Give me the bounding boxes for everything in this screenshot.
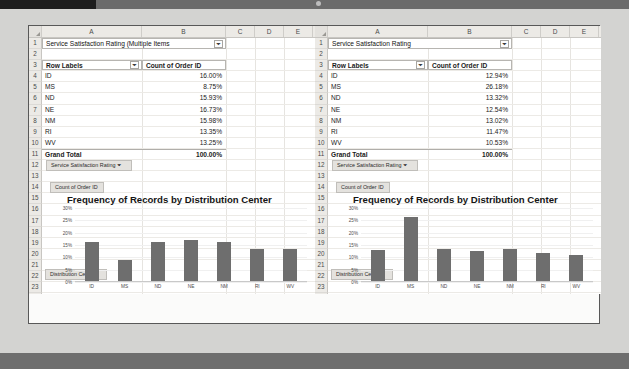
column-header-b[interactable]: B (142, 26, 226, 37)
row-number-21[interactable]: 21 (29, 260, 42, 271)
row-number-20[interactable]: 20 (29, 249, 42, 260)
select-all-corner[interactable] (315, 26, 328, 37)
row-number-2[interactable]: 2 (315, 49, 328, 60)
row-number-15[interactable]: 15 (29, 193, 42, 204)
row-number-8[interactable]: 8 (29, 116, 42, 127)
row-number-5[interactable]: 5 (315, 82, 328, 93)
chart-bar (569, 255, 583, 281)
row-number-13[interactable]: 13 (29, 171, 42, 182)
table-row: 10WV13.25% (29, 138, 315, 149)
row-number-12[interactable]: 12 (315, 160, 328, 171)
pivot-chart-panel-b[interactable]: Frequency of Records by Distribution Cen… (329, 194, 598, 290)
row-number-6[interactable]: 6 (315, 93, 328, 104)
row-number-14[interactable]: 14 (29, 182, 42, 193)
sheet-row: 11Grand Total100.00% (315, 149, 601, 160)
column-header-e[interactable]: E (570, 26, 599, 37)
row-number-19[interactable]: 19 (315, 238, 328, 249)
row-number-2[interactable]: 2 (29, 49, 42, 60)
cell-gridline (226, 149, 227, 159)
cell-count-value: 13.32% (428, 93, 512, 103)
row-number-3[interactable]: 3 (315, 60, 328, 71)
column-header-c[interactable]: C (226, 26, 255, 37)
row-number-22[interactable]: 22 (315, 271, 328, 282)
row-number-9[interactable]: 9 (29, 127, 42, 138)
column-header-c[interactable]: C (512, 26, 541, 37)
row-labels-filter-icon[interactable]: ⏷ (416, 61, 425, 69)
row-number-7[interactable]: 7 (29, 105, 42, 116)
row-number-12[interactable]: 12 (29, 160, 42, 171)
cell-gridline (570, 116, 571, 126)
row-number-20[interactable]: 20 (315, 249, 328, 260)
row-number-8[interactable]: 8 (315, 116, 328, 127)
row-number-24[interactable]: 24 (315, 293, 328, 294)
y-axis-tick: 30% (349, 206, 358, 211)
chart-bar (283, 249, 297, 281)
row-labels-filter-icon[interactable]: ⏷ (130, 61, 139, 69)
row-number-9[interactable]: 9 (315, 127, 328, 138)
row-number-13[interactable]: 13 (315, 171, 328, 182)
row-number-10[interactable]: 10 (315, 138, 328, 149)
row-number-7[interactable]: 7 (315, 105, 328, 116)
row-cells (328, 293, 601, 294)
row-cells: NE12.54% (328, 105, 601, 116)
row-number-18[interactable]: 18 (29, 227, 42, 238)
report-filter-label: Service Satisfaction Rating (Multiple It… (43, 39, 225, 49)
sheet-row: 13 (315, 171, 601, 182)
row-number-16[interactable]: 16 (315, 204, 328, 215)
pivot-field-button-filter[interactable]: Service Satisfaction Rating ⏷ (332, 160, 418, 171)
row-number-4[interactable]: 4 (29, 71, 42, 82)
row-number-11[interactable]: 11 (315, 149, 328, 160)
row-number-17[interactable]: 17 (29, 216, 42, 227)
y-axis-tick: 20% (349, 230, 358, 235)
sheet-row: 13 (29, 171, 315, 182)
row-number-10[interactable]: 10 (29, 138, 42, 149)
column-header-d[interactable]: D (541, 26, 570, 37)
pivot-field-button-filter[interactable]: Service Satisfaction Rating ⏷ (46, 160, 132, 171)
report-filter-cell[interactable]: Service Satisfaction Rating⏷ (328, 38, 512, 49)
cell-count-value: 16.73% (142, 105, 226, 115)
row-number-4[interactable]: 4 (315, 71, 328, 82)
row-number-1[interactable]: 1 (315, 38, 328, 49)
column-header-e[interactable]: E (284, 26, 313, 37)
row-number-21[interactable]: 21 (315, 260, 328, 271)
cell-gridline (142, 171, 143, 181)
row-number-15[interactable]: 15 (315, 193, 328, 204)
row-number-16[interactable]: 16 (29, 204, 42, 215)
report-filter-icon[interactable]: ⏷ (214, 40, 223, 48)
row-cells (42, 293, 315, 294)
row-number-24[interactable]: 24 (29, 293, 42, 294)
cell-gridline (541, 71, 542, 81)
select-all-corner[interactable] (29, 26, 42, 37)
field-filter-icon: ⏷ (401, 162, 407, 168)
row-number-19[interactable]: 19 (29, 238, 42, 249)
pivot-field-button-values[interactable]: Count of Order ID (50, 182, 104, 193)
row-number-22[interactable]: 22 (29, 271, 42, 282)
row-number-14[interactable]: 14 (315, 182, 328, 193)
report-filter-icon[interactable]: ⏷ (500, 40, 509, 48)
row-number-6[interactable]: 6 (29, 93, 42, 104)
table-row: 5MS8.75% (29, 82, 315, 93)
row-cells: WV13.25% (42, 138, 315, 149)
row-number-1[interactable]: 1 (29, 38, 42, 49)
chart-bar (371, 250, 385, 281)
column-header-a[interactable]: A (328, 26, 428, 37)
column-header-b[interactable]: B (428, 26, 512, 37)
pivot-field-button-values[interactable]: Count of Order ID (336, 182, 390, 193)
row-number-23[interactable]: 23 (315, 282, 328, 293)
column-header-d[interactable]: D (255, 26, 284, 37)
cell-gridline (226, 71, 227, 81)
cell-gridline (541, 60, 542, 70)
row-cells: NM15.98% (42, 116, 315, 127)
report-filter-cell[interactable]: Service Satisfaction Rating (Multiple It… (42, 38, 226, 49)
cell-gridline (226, 160, 227, 170)
column-header-a[interactable]: A (42, 26, 142, 37)
report-filter-label: Service Satisfaction Rating (329, 39, 511, 49)
row-number-23[interactable]: 23 (29, 282, 42, 293)
row-number-17[interactable]: 17 (315, 216, 328, 227)
row-number-5[interactable]: 5 (29, 82, 42, 93)
pivot-chart-panel-a[interactable]: Frequency of Records by Distribution Cen… (43, 194, 312, 290)
row-number-18[interactable]: 18 (315, 227, 328, 238)
row-number-11[interactable]: 11 (29, 149, 42, 160)
sheet-row: 2 (29, 49, 315, 60)
row-number-3[interactable]: 3 (29, 60, 42, 71)
